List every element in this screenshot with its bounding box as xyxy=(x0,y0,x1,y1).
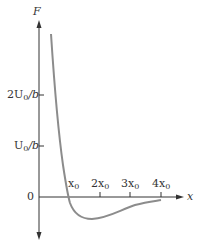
x-tick-label-x0: x0 xyxy=(68,178,79,191)
y2-main: 2U xyxy=(7,88,23,101)
x-tick-label-4x0: 4x0 xyxy=(152,178,170,191)
x-axis-label: x xyxy=(187,191,193,202)
x3-main: 3x xyxy=(121,177,134,190)
x2-sub: 0 xyxy=(104,182,109,191)
y-axis-arrow-up-icon xyxy=(37,20,42,28)
x4-main: 4x xyxy=(152,177,165,190)
y-tick-label-U0b: U0/b xyxy=(14,140,39,153)
x4-sub: 0 xyxy=(165,182,170,191)
x-tick-label-2x0: 2x0 xyxy=(91,178,109,191)
y-axis-arrow-down-icon xyxy=(37,232,42,240)
force-curve xyxy=(51,34,161,219)
force-plot xyxy=(0,0,198,249)
x1-sub: 0 xyxy=(74,182,79,191)
y1-main: U xyxy=(14,139,23,152)
y2-tail: /b xyxy=(28,88,39,101)
x3-sub: 0 xyxy=(134,182,139,191)
x-tick-label-3x0: 3x0 xyxy=(121,178,139,191)
y-axis-label: F xyxy=(33,6,41,17)
zero-label: 0 xyxy=(27,191,34,202)
x2-main: 2x xyxy=(91,177,104,190)
y-tick-label-2U0b: 2U0/b xyxy=(7,89,39,102)
y1-tail: /b xyxy=(28,139,39,152)
x-axis-arrow-icon xyxy=(176,195,184,200)
